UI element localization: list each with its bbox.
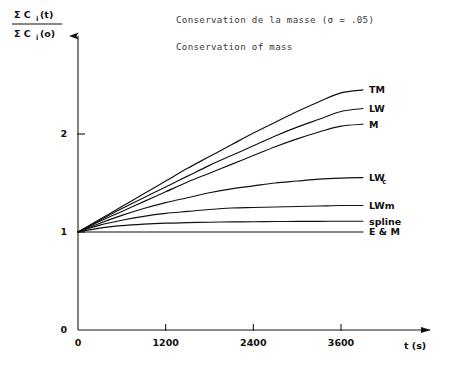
title-english: Conservation of mass <box>176 41 293 52</box>
y-axis-label-denominator: Σ C <box>14 28 31 39</box>
y-axis-label-numerator-argument: (t) <box>40 9 53 20</box>
y-axis-label-denominator-subscript: i <box>36 34 38 42</box>
curve-label-lwm: LWm <box>369 200 395 211</box>
title-french: Conservation de la masse (σ = .05) <box>176 14 374 25</box>
x-axis-title: t (s) <box>404 340 426 351</box>
x-tick-label: 0 <box>75 337 82 348</box>
y-axis-label: Σ C i (t) Σ C i (o) <box>12 9 62 42</box>
conservation-of-mass-chart: Conservation de la masse (σ = .05) Conse… <box>0 0 476 377</box>
curve-label-e-and-m: E & M <box>369 226 400 237</box>
y-axis-label-numerator-subscript: i <box>36 15 38 23</box>
y-tick-label: 0 <box>60 324 67 335</box>
x-tick-label: 2400 <box>240 337 267 348</box>
curve-label-tm: TM <box>369 84 385 95</box>
curve-label-spline: spline <box>369 216 401 227</box>
y-tick-label: 1 <box>60 226 67 237</box>
x-axis-ticks: 0120024003600 <box>75 324 355 348</box>
y-axis-label-denominator-argument: (o) <box>40 28 55 39</box>
curve-spline <box>78 221 363 232</box>
curve-label-lw: LW <box>369 103 385 114</box>
curve-label-lwc-subscript: c <box>382 178 386 186</box>
curve-lw <box>78 109 363 232</box>
x-tick-label: 3600 <box>328 337 355 348</box>
curve-label-group: TMLWMLWcLWmsplineE & M <box>369 84 401 237</box>
x-tick-label: 1200 <box>152 337 179 348</box>
curve-group <box>78 90 363 232</box>
curve-lwc <box>78 178 363 232</box>
y-axis-label-numerator: Σ C <box>14 9 31 20</box>
curve-label-m: M <box>369 119 378 130</box>
y-tick-label: 2 <box>60 128 67 139</box>
